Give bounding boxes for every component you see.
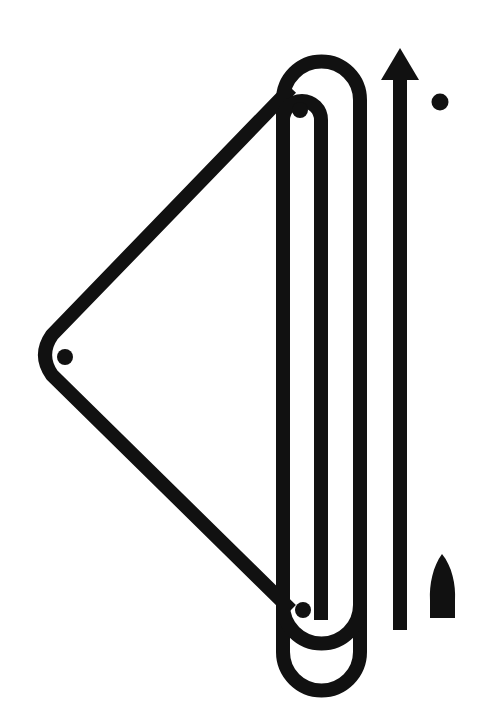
wind-arrow-icon xyxy=(381,48,419,630)
wing-mark-icon xyxy=(57,349,73,365)
windward-mark-icon xyxy=(292,102,308,118)
leeward-mark-icon xyxy=(295,602,311,618)
boat-icon xyxy=(430,554,455,618)
course-diagram xyxy=(0,0,489,717)
start-pin-mark-icon xyxy=(432,94,449,111)
triangle-course-path xyxy=(45,88,291,610)
